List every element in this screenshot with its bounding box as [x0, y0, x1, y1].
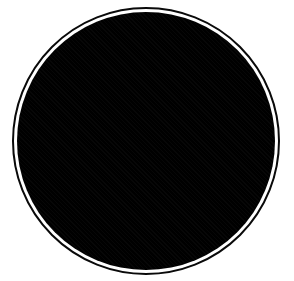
radial-glow	[17, 12, 275, 270]
intensity-disk	[17, 12, 275, 270]
image-canvas: Circular aperture with a bright radially…	[0, 0, 294, 281]
